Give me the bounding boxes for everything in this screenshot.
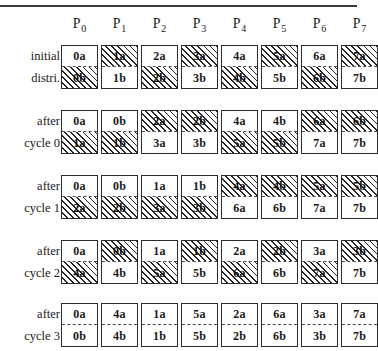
data-block-bottom: 4b [102,325,137,346]
data-block-bottom: 1b [102,132,137,153]
processor-box: 0a2a [61,175,98,219]
data-block-label: 0a [62,50,97,62]
data-block-top: 3a [182,46,217,67]
data-block-label: 0b [102,115,137,127]
data-block-bottom: 6b [262,325,297,346]
data-block-bottom: 6b [262,197,297,218]
data-block-label: 7a [342,50,377,62]
data-block-label: 4b [222,72,257,84]
processor-header-p2: P2 [141,17,178,36]
data-block-label: 0a [62,245,97,257]
data-block-label: 0b [102,180,137,192]
processor-box: 6a7a [301,110,338,154]
data-block-bottom: 7b [342,262,377,283]
data-block-bottom: 3b [182,67,217,88]
processor-header-p7: P7 [341,17,378,36]
data-block-bottom: 7b [342,67,377,88]
row-label-line1: after [2,308,60,321]
data-block-label: 2b [222,330,257,342]
data-block-bottom: 5a [142,262,177,283]
data-block-label: 3a [302,308,337,320]
data-block-label: 4b [102,267,137,279]
processor-box: 6a6b [261,303,298,347]
data-block-label: 7b [342,137,377,149]
data-block-label: 1a [142,308,177,320]
data-block-label: 6b [262,267,297,279]
processor-box: 5a5b [181,303,218,347]
processor-box: 0a0b [61,303,98,347]
data-block-top: 2a [222,241,257,262]
processor-box: 1a5a [141,240,178,284]
processor-box: 1b3b [181,175,218,219]
data-block-label: 1a [142,180,177,192]
data-block-label: 3b [182,137,217,149]
processor-box: 2b6b [261,240,298,284]
data-block-label: 0b [62,72,97,84]
processor-box: 0b4b [101,240,138,284]
data-block-top: 0a [62,46,97,67]
processor-box: 2a2b [141,45,178,89]
data-block-label: 4a [62,267,97,279]
data-block-label: 5b [182,330,217,342]
data-block-label: 5b [342,180,377,192]
row-label-line1: after [2,180,60,193]
processor-header-index: 1 [121,23,127,34]
processor-box: 2a3a [141,110,178,154]
data-block-label: 4b [262,115,297,127]
row-label-line2: distri. [2,72,60,85]
processor-box: 3a7a [301,240,338,284]
data-block-top: 3b [342,241,377,262]
processor-box: 0b1b [101,110,138,154]
data-block-label: 4b [102,330,137,342]
data-block-bottom: 7b [342,197,377,218]
data-block-top: 0a [62,111,97,132]
data-block-bottom: 6a [222,197,257,218]
data-block-label: 4a [102,308,137,320]
processor-header-p0: P0 [61,17,98,36]
data-block-label: 7a [302,202,337,214]
data-block-label: 1b [102,137,137,149]
data-block-label: 1a [62,137,97,149]
data-block-top: 5b [342,176,377,197]
data-block-label: 3a [142,137,177,149]
data-block-bottom: 1b [142,325,177,346]
data-block-label: 7b [342,267,377,279]
data-block-label: 3b [182,72,217,84]
data-block-label: 3a [302,245,337,257]
data-block-label: 1a [142,245,177,257]
processor-header-index: 4 [241,23,247,34]
processor-box: 4a5a [221,110,258,154]
data-block-bottom: 7a [302,197,337,218]
data-block-bottom: 2b [222,325,257,346]
processor-header-letter: P [273,16,281,31]
data-block-label: 5a [182,308,217,320]
data-block-label: 1b [182,180,217,192]
processor-box: 7a7b [341,45,378,89]
data-block-label: 0b [102,245,137,257]
processor-box: 7a7b [341,303,378,347]
data-block-bottom: 7a [302,132,337,153]
data-block-bottom: 5b [262,132,297,153]
data-block-bottom: 5b [182,325,217,346]
row-label-line1: after [2,245,60,258]
processor-header-index: 3 [201,23,207,34]
processor-box: 0a1a [61,110,98,154]
processor-header-p4: P4 [221,17,258,36]
data-block-bottom: 3b [302,325,337,346]
data-block-bottom: 5b [262,67,297,88]
data-block-top: 3a [302,304,337,325]
data-block-bottom: 6b [262,262,297,283]
data-block-bottom: 7b [342,325,377,346]
data-block-label: 6b [342,115,377,127]
data-block-bottom: 5a [222,132,257,153]
data-block-top: 4a [102,304,137,325]
processor-box: 0a0b [61,45,98,89]
data-block-top: 5a [262,46,297,67]
data-block-top: 4a [222,176,257,197]
data-block-label: 6b [302,72,337,84]
data-block-top: 4b [262,176,297,197]
data-block-top: 1a [142,176,177,197]
processor-box: 3a3b [301,303,338,347]
data-block-top: 7a [342,304,377,325]
